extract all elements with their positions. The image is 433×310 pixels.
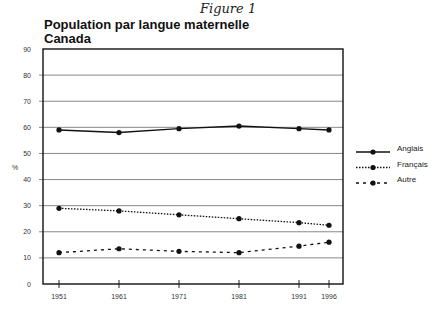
y-tick-label: 50 bbox=[23, 150, 31, 157]
y-axis-label: % bbox=[12, 164, 18, 171]
data-point bbox=[116, 130, 121, 135]
legend-marker bbox=[370, 149, 375, 154]
legend-label: Français bbox=[397, 160, 428, 169]
x-tick-label: 1971 bbox=[171, 293, 187, 300]
legend-label: Anglais bbox=[397, 144, 423, 153]
y-tick-label: 90 bbox=[23, 46, 31, 53]
data-point bbox=[176, 249, 181, 254]
legend-marker bbox=[370, 165, 375, 170]
data-point bbox=[296, 126, 301, 131]
y-tick-label: 40 bbox=[23, 176, 31, 183]
data-point bbox=[56, 206, 61, 211]
data-point bbox=[326, 127, 331, 132]
data-point bbox=[236, 250, 241, 255]
x-tick-label: 1996 bbox=[321, 293, 337, 300]
data-point bbox=[116, 208, 121, 213]
data-point bbox=[326, 240, 331, 245]
data-point bbox=[326, 223, 331, 228]
data-point bbox=[116, 246, 121, 251]
data-point bbox=[236, 216, 241, 221]
data-point bbox=[296, 244, 301, 249]
data-point bbox=[56, 250, 61, 255]
data-point bbox=[176, 212, 181, 217]
legend-marker bbox=[370, 180, 375, 185]
plot-frame bbox=[43, 49, 343, 284]
y-tick-label: 10 bbox=[23, 254, 31, 261]
y-tick-label: 0 bbox=[27, 281, 31, 288]
y-tick-label: 30 bbox=[23, 202, 31, 209]
data-point bbox=[56, 127, 61, 132]
x-tick-label: 1991 bbox=[291, 293, 307, 300]
x-tick-label: 1961 bbox=[111, 293, 127, 300]
y-tick-label: 80 bbox=[23, 72, 31, 79]
data-point bbox=[236, 123, 241, 128]
line-chart: 0102030405060708090%19511961197119811991… bbox=[0, 0, 433, 310]
y-tick-label: 20 bbox=[23, 228, 31, 235]
x-tick-label: 1981 bbox=[231, 293, 247, 300]
y-tick-label: 60 bbox=[23, 124, 31, 131]
legend-label: Autre bbox=[397, 175, 417, 184]
data-point bbox=[176, 126, 181, 131]
y-tick-label: 70 bbox=[23, 98, 31, 105]
series-line-français bbox=[59, 208, 329, 225]
x-tick-label: 1951 bbox=[51, 293, 67, 300]
data-point bbox=[296, 220, 301, 225]
series-line-autre bbox=[59, 242, 329, 252]
